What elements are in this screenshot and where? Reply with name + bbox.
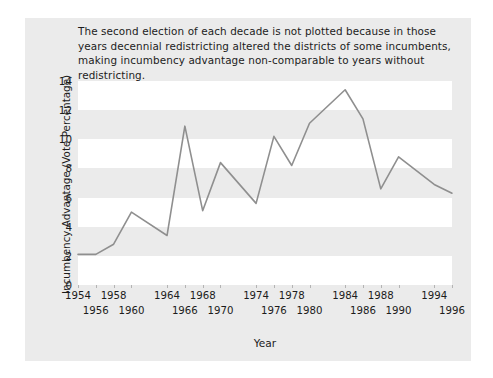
x-axis-tick-label: 1966 — [172, 305, 198, 316]
x-axis-title: Year — [78, 337, 452, 349]
x-axis-tick-label: 1990 — [386, 305, 412, 316]
x-axis-tick-label: 1980 — [297, 305, 323, 316]
x-axis-tick-mark — [363, 285, 364, 288]
y-axis-tick-label: 12 — [46, 104, 72, 116]
x-axis-tick-mark — [114, 285, 115, 288]
x-axis-tick-mark — [381, 285, 382, 288]
x-axis-tick-label: 1960 — [118, 305, 144, 316]
x-axis-tick-mark — [434, 285, 435, 288]
x-axis-tick-mark — [452, 285, 453, 288]
chart-caption: The second election of each decade is no… — [78, 24, 460, 82]
x-axis-tick-label: 1958 — [101, 290, 127, 301]
x-axis-tick-mark — [78, 285, 79, 288]
x-axis-tick-label: 1996 — [439, 305, 465, 316]
plot-area — [78, 81, 452, 285]
y-axis-tick-label: 4 — [46, 221, 72, 233]
y-axis-tick-label: 2 — [46, 250, 72, 262]
x-axis-tick-label: 1968 — [190, 290, 216, 301]
y-axis-tick-label: 10 — [46, 133, 72, 145]
y-axis-ticks: 02468101214 — [44, 81, 72, 285]
x-axis-tick-mark — [345, 285, 346, 288]
x-axis-tick-mark — [220, 285, 221, 288]
x-axis-tick-mark — [292, 285, 293, 288]
data-line-incumbency-advantage — [78, 90, 452, 255]
x-axis-tick-mark — [185, 285, 186, 288]
x-axis-tick-mark — [96, 285, 97, 288]
x-axis-tick-label: 1970 — [208, 305, 234, 316]
y-axis-tick-label: 6 — [46, 192, 72, 204]
x-axis-tick-label: 1978 — [279, 290, 305, 301]
series-svg — [78, 81, 452, 285]
x-axis-tick-label: 1984 — [332, 290, 358, 301]
x-axis-tick-mark — [274, 285, 275, 288]
x-axis-tick-label: 1976 — [261, 305, 287, 316]
x-axis-ticks: 1954195819641968197419781984198819941956… — [78, 285, 452, 327]
x-axis-tick-mark — [167, 285, 168, 288]
figure: The second election of each decade is no… — [0, 0, 493, 378]
y-axis-tick-label: 14 — [46, 75, 72, 87]
x-axis-tick-mark — [310, 285, 311, 288]
y-axis-tick-label: 8 — [46, 162, 72, 174]
x-axis-tick-mark — [399, 285, 400, 288]
y-axis-title-wrap: Incumbency Advantage (Vote Percentage) — [30, 0, 44, 366]
x-axis-tick-mark — [131, 285, 132, 288]
x-axis-tick-label: 1974 — [243, 290, 269, 301]
x-axis-tick-mark — [203, 285, 204, 288]
x-axis-tick-label: 1954 — [65, 290, 91, 301]
x-axis-tick-label: 1964 — [154, 290, 180, 301]
x-axis-tick-label: 1956 — [83, 305, 109, 316]
x-axis-tick-mark — [256, 285, 257, 288]
x-axis-tick-label: 1986 — [350, 305, 376, 316]
x-axis-tick-label: 1994 — [421, 290, 447, 301]
x-axis-tick-label: 1988 — [368, 290, 394, 301]
